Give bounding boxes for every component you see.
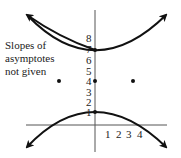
y-tick: 2 [86, 97, 92, 108]
note-line: not given [5, 65, 75, 78]
note-line: Slopes of [5, 39, 75, 52]
x-tick: 1 [105, 129, 111, 140]
right-point [131, 79, 135, 83]
y-tick: 4 [86, 76, 92, 87]
x-tick: 4 [137, 129, 143, 140]
y-tick: 5 [86, 66, 92, 77]
center-point [93, 79, 97, 83]
y-tick: 8 [86, 33, 92, 44]
left-point [57, 79, 61, 83]
y-tick: 1 [86, 107, 92, 118]
vertex-lower [93, 110, 97, 114]
x-tick: 3 [126, 129, 132, 140]
y-tick: 3 [86, 87, 92, 98]
asymptote-note: Slopes of asymptotes not given [5, 39, 75, 78]
y-tick: 6 [86, 55, 92, 66]
note-line: asymptotes [5, 52, 75, 65]
vertex-upper [93, 48, 97, 52]
x-tick: 2 [116, 129, 122, 140]
y-tick: 7 [86, 44, 92, 55]
